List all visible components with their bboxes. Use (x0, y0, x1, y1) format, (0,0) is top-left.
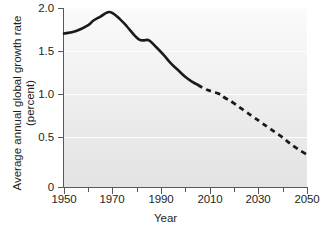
y-tick-1-0 (58, 94, 63, 95)
y-axis-title-line1: Average annual global growth rate (11, 3, 24, 203)
y-tick-1-5 (58, 51, 63, 52)
y-tick-2-0 (58, 8, 63, 9)
chart-figure: 2.0 1.5 1.0 0.5 0 1950 1970 1990 2010 20… (0, 0, 331, 233)
x-tick-label-1970: 1970 (92, 193, 132, 205)
gridline-1-5 (64, 51, 307, 52)
gridline-1-0 (64, 94, 307, 95)
gridline-2-0 (64, 8, 307, 9)
x-tick-2040 (283, 188, 284, 192)
x-tick-label-1950: 1950 (44, 193, 84, 205)
x-tick-label-2030: 2030 (238, 193, 278, 205)
x-tick-1960 (88, 188, 89, 192)
x-tick-1980 (137, 188, 138, 192)
x-tick-label-1990: 1990 (141, 193, 181, 205)
x-tick-label-2010: 2010 (190, 193, 230, 205)
x-tick-2020 (234, 188, 235, 192)
y-tick-0 (58, 187, 63, 188)
gridline-0-5 (64, 137, 307, 138)
y-axis-title: Average annual global growth rate (perce… (11, 3, 37, 203)
x-tick-2000 (185, 188, 186, 192)
x-axis-title: Year (0, 212, 331, 224)
plot-area (64, 8, 307, 187)
y-axis-title-line2: (percent) (24, 3, 37, 203)
y-tick-0-5 (58, 137, 63, 138)
y-axis-line (63, 8, 64, 188)
x-tick-label-2050: 2050 (287, 193, 327, 205)
